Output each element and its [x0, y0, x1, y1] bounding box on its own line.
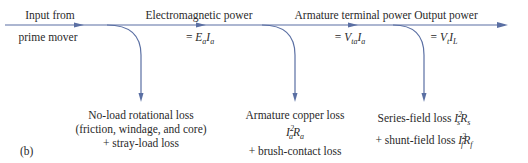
loss-series-field: Series-field loss I2sRs	[375, 108, 472, 130]
loss-rotational-line3: + stray-load loss	[75, 136, 206, 150]
stage-input-title: Input from	[25, 9, 75, 22]
loss-branch-armature-copper	[262, 25, 295, 96]
loss-shunt-field: + shunt-field loss I2fRf	[375, 130, 472, 152]
stage-electromagnetic-equation: = EaIa	[186, 31, 214, 48]
loss-rotational: No-load rotational loss (friction, winda…	[75, 108, 206, 150]
panel-label: (b)	[20, 145, 33, 158]
stage-terminal-equation: = VtaIa	[335, 31, 365, 48]
arrowhead-icon	[196, 23, 206, 28]
loss-branch-field	[393, 25, 424, 96]
stage-output-title: Output power	[414, 9, 478, 22]
arrowhead-down-icon	[139, 93, 144, 102]
loss-field: Series-field loss I2sRs + shunt-field lo…	[375, 108, 472, 152]
arrowhead-down-icon	[293, 93, 298, 102]
stage-electromagnetic-title: Electromagnetic power	[146, 9, 253, 22]
loss-rotational-line1: No-load rotational loss	[75, 108, 206, 122]
loss-armature-line1: Armature copper loss	[246, 108, 345, 122]
loss-armature-line3: + brush-contact loss	[246, 144, 345, 158]
loss-armature-equation: I2aRa	[246, 122, 345, 144]
arrowhead-icon	[497, 22, 508, 28]
stage-terminal-title: Armature terminal power	[295, 9, 412, 22]
arrowhead-icon	[74, 23, 84, 28]
loss-armature-copper: Armature copper loss I2aRa + brush-conta…	[246, 108, 345, 158]
stage-output-equation: = VtIL	[431, 31, 458, 48]
stage-input-subtitle: prime mover	[18, 31, 77, 44]
loss-branch-rotational	[107, 25, 141, 96]
loss-rotational-line2: (friction, windage, and core)	[75, 122, 206, 136]
arrowhead-down-icon	[422, 93, 427, 102]
arrowhead-icon	[348, 23, 358, 28]
